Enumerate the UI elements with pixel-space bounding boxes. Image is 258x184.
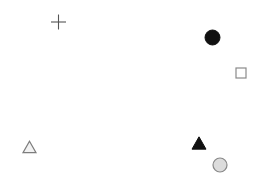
filled-circle-marker[interactable] [205, 30, 220, 45]
gray-circle-marker[interactable] [213, 158, 227, 172]
scatter-plot-canvas [0, 0, 258, 184]
plot-background [0, 0, 258, 184]
open-square-marker[interactable] [236, 68, 246, 78]
scatter-plot-svg [0, 0, 258, 184]
